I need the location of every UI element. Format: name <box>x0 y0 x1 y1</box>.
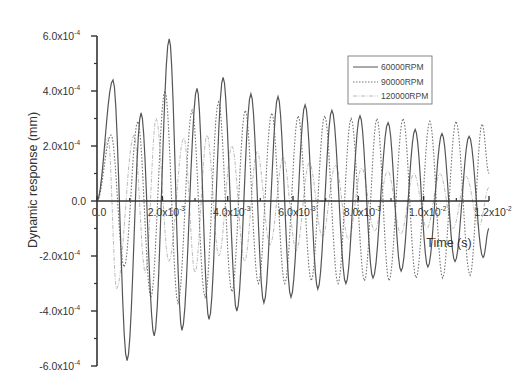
x-tick-label: 1.0x10-2 <box>409 205 447 218</box>
y-axis-title: Dynamic response (mm) <box>26 112 40 248</box>
legend: 60000RPM 90000RPM 120000RPM <box>348 56 432 104</box>
line-chart: 0.02.0x10-34.0x10-36.0x10-38.0x10-31.0x1… <box>0 0 524 385</box>
y-tick-label: -4.0x10-4 <box>39 304 80 317</box>
legend-label-60000rpm: 60000RPM <box>381 62 424 72</box>
y-ticks: 6.0x10-44.0x10-42.0x10-40.0-2.0x10-4-4.0… <box>39 29 97 372</box>
y-tick-label: -2.0x10-4 <box>39 249 80 262</box>
series-120000rpm <box>97 119 489 290</box>
y-tick-label: -6.0x10-4 <box>39 359 80 372</box>
y-tick-label: 6.0x10-4 <box>43 29 81 42</box>
legend-label-120000rpm: 120000RPM <box>381 91 428 101</box>
y-tick-label: 2.0x10-4 <box>43 139 81 152</box>
x-tick-label: 6.0x10-3 <box>278 205 316 218</box>
x-axis-title: Time (s) <box>426 236 471 250</box>
axes: 0.02.0x10-34.0x10-36.0x10-38.0x10-31.0x1… <box>39 29 512 372</box>
x-tick-label: 2.0x10-3 <box>148 205 186 218</box>
y-tick-label: 0.0 <box>71 195 86 207</box>
y-tick-label: 4.0x10-4 <box>43 84 81 97</box>
x-tick-label: 8.0x10-3 <box>344 205 382 218</box>
legend-label-90000rpm: 90000RPM <box>381 77 424 87</box>
x-tick-label: 0.0 <box>92 206 107 218</box>
x-tick-label: 1.2x10-2 <box>474 205 512 218</box>
x-tick-label: 4.0x10-3 <box>213 205 251 218</box>
